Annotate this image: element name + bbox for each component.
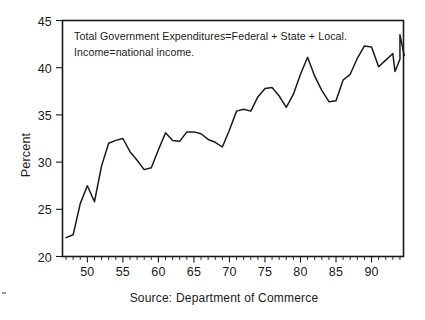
expenditures-line-chart: 45 40 35 30 25 20 Percent 50556065707580… [0,0,425,320]
annotation-line-2: Income=national income. [74,46,194,58]
y-tick-label: 35 [38,109,52,123]
chart-figure: 45 40 35 30 25 20 Percent 50556065707580… [0,0,425,320]
x-tick-label: 70 [222,265,236,279]
x-tick-label: 60 [151,265,165,279]
x-tick-label: 55 [116,265,130,279]
scan-speck [2,292,6,294]
y-tick-label: 45 [38,15,52,29]
x-tick-label: 75 [258,265,272,279]
y-axis-title: Percent [19,132,33,177]
y-tick-label: 25 [38,203,52,217]
y-tick-label: 20 [38,251,52,265]
x-tick-label: 65 [187,265,201,279]
y-tick-label: 40 [38,62,52,76]
x-axis-tick-labels: 505560657075808590 [80,265,378,279]
x-tick-label: 50 [80,265,94,279]
x-tick-label: 85 [329,265,343,279]
x-tick-label: 90 [364,265,378,279]
y-tick-label: 30 [38,156,52,170]
chart-background [0,0,425,320]
source-caption: Source: Department of Commerce [130,291,319,305]
x-tick-label: 80 [293,265,307,279]
annotation-line-1: Total Government Expenditures=Federal + … [74,30,347,42]
